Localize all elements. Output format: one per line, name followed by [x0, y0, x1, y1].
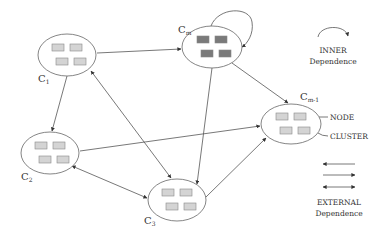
cluster-dependence-diagram: C1CmCm-1C2C3 NODE CLUSTER INNER Dependen… — [0, 0, 384, 235]
node — [53, 142, 65, 149]
node — [276, 113, 288, 120]
node — [219, 50, 231, 57]
node — [201, 50, 213, 57]
node — [57, 156, 69, 163]
node — [162, 189, 174, 196]
cluster-c3: C3 — [144, 179, 206, 227]
inner-legend-title: INNER — [319, 46, 347, 55]
node-label: NODE — [330, 113, 354, 122]
cluster-label-c3: C3 — [144, 215, 156, 227]
edge-c3-cm1 — [206, 138, 266, 197]
node — [74, 58, 86, 65]
node — [180, 189, 192, 196]
node — [166, 203, 178, 210]
node — [52, 44, 64, 51]
node — [197, 36, 209, 43]
external-legend-title: EXTERNAL — [317, 198, 361, 207]
cluster-cm1: Cm-1 — [261, 91, 321, 144]
cluster-label-c1: C1 — [38, 73, 49, 85]
cluster-label: CLUSTER — [330, 132, 368, 141]
cluster-callout-line — [318, 133, 328, 136]
node — [39, 156, 51, 163]
node — [215, 36, 227, 43]
cluster-c2: C2 — [21, 132, 79, 183]
edge-c2-c3 — [72, 166, 147, 198]
cluster-label-cm: Cm — [178, 24, 192, 36]
cluster-ellipse — [148, 179, 206, 221]
edge-cm-cm1 — [232, 63, 288, 103]
node — [70, 44, 82, 51]
node — [35, 142, 47, 149]
inner-dependence-arrow — [318, 27, 348, 37]
node — [280, 127, 292, 134]
node — [184, 203, 196, 210]
node — [56, 58, 68, 65]
edge-cm-c3 — [197, 68, 212, 184]
inner-legend-sub: Dependence — [309, 57, 357, 66]
edge-c1-c3 — [91, 71, 171, 178]
cluster-ellipse — [261, 104, 321, 144]
cluster-label-cm1: Cm-1 — [300, 91, 319, 103]
external-legend-sub: Dependence — [315, 209, 363, 218]
edge-c2-cm1 — [80, 126, 260, 151]
node — [298, 127, 310, 134]
cluster-cm: Cm — [178, 24, 242, 68]
edge-c1-cm — [97, 49, 181, 53]
edge-c1-c2 — [52, 76, 67, 131]
node — [294, 113, 306, 120]
cluster-ellipse — [38, 34, 96, 76]
cluster-ellipse — [21, 132, 79, 174]
cluster-label-c2: C2 — [21, 171, 33, 183]
